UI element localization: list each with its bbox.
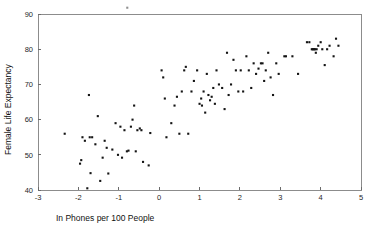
data-point [80,159,82,161]
data-point [209,99,211,101]
data-point [94,143,96,145]
data-point [315,52,317,54]
data-point [104,140,106,142]
data-point [117,154,119,156]
data-point [64,133,66,135]
data-point [136,129,138,131]
data-point [261,62,263,64]
data-point [131,119,133,121]
data-point [81,136,83,138]
data-point [306,41,308,43]
data-point [326,48,328,50]
data-point [183,69,185,71]
data-point [106,147,108,149]
data-point [270,76,272,78]
data-point [237,90,239,92]
data-point [79,163,81,165]
data-point [329,45,331,47]
stray-data-point [126,7,128,9]
data-point [204,112,206,114]
data-point [206,73,208,75]
scatter-plot-canvas: -3-2-1012345 405060708090 In Phones per … [0,0,373,226]
data-point [272,94,274,96]
data-point [224,108,226,110]
data-point [170,122,172,124]
data-point [196,69,198,71]
x-tick-label: 4 [319,193,323,202]
data-point [228,94,230,96]
data-point [88,94,90,96]
data-point [102,157,104,159]
data-point [317,45,319,47]
data-point [84,140,86,142]
data-point [115,122,117,124]
data-point [226,52,228,54]
data-point [263,80,265,82]
data-point [99,180,101,182]
data-point [178,133,180,135]
y-tick-label: 80 [25,45,33,54]
data-point [232,59,234,61]
data-point [240,69,242,71]
data-point-series [64,38,340,190]
data-point [89,136,91,138]
y-axis-ticks: 405060708090 [25,10,41,195]
data-point [214,103,216,105]
x-tick-label: 2 [238,193,242,202]
x-tick-label: 1 [197,193,201,202]
data-point [190,90,192,92]
data-point [187,133,189,135]
data-point [181,90,183,92]
y-tick-label: 70 [25,80,33,89]
data-point [91,136,93,138]
data-point [203,90,205,92]
x-tick-label: -1 [115,193,122,202]
data-point [207,94,209,96]
data-point [275,62,277,64]
y-tick-label: 90 [25,10,33,19]
data-point [201,105,203,107]
x-axis-ticks: -3-2-1012345 [35,187,363,202]
y-tick-label: 60 [25,115,33,124]
data-point [123,129,125,131]
plot-frame [38,14,361,190]
data-point [149,132,151,134]
data-point [135,150,137,152]
data-point [324,64,326,66]
data-point [255,73,257,75]
data-point [165,136,167,138]
data-point [193,80,195,82]
data-point [335,38,337,40]
data-point [127,150,129,152]
data-point [337,45,339,47]
data-point [242,90,244,92]
data-point [245,55,247,57]
data-point [133,105,135,107]
data-point [278,73,280,75]
data-point [86,187,88,189]
data-point [308,41,310,43]
data-point [248,69,250,71]
data-point [121,157,123,159]
data-point [200,97,202,99]
y-axis-title: Female Life Expectancy [3,64,13,155]
data-point [267,52,269,54]
data-point [142,161,144,163]
x-tick-label: 5 [359,193,363,202]
data-point [97,115,99,117]
data-point [321,48,323,50]
data-point [253,62,255,64]
data-point [211,96,213,98]
data-point [161,69,163,71]
scatter-plot-figure: -3-2-1012345 405060708090 In Phones per … [0,0,373,226]
data-point [107,172,109,174]
y-tick-label: 40 [25,186,33,195]
data-point [291,55,293,57]
data-point [130,126,132,128]
x-tick-label: -2 [75,193,82,202]
data-point [111,149,113,151]
data-point [218,83,220,85]
data-point [285,55,287,57]
data-point [162,76,164,78]
x-tick-label: -3 [35,193,42,202]
